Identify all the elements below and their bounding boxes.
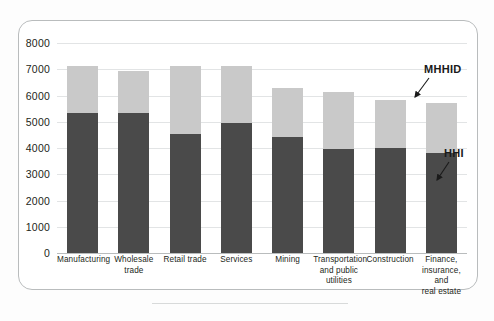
x-axis-label-0: Manufacturing xyxy=(57,255,108,266)
bar-segment-hhi[interactable] xyxy=(375,148,406,253)
x-axis-label-line: Manufacturing xyxy=(57,255,108,266)
x-axis-label-line: Transportation xyxy=(313,255,364,266)
x-axis-label-line: utilities xyxy=(313,276,364,287)
bar-segment-mhhid[interactable] xyxy=(67,66,98,113)
figure: 800070006000500040003000200010000Manufac… xyxy=(0,0,494,321)
annotation-label-hhi: HHI xyxy=(444,147,464,159)
y-axis-tick-3000: 3000 xyxy=(26,168,50,180)
bar-segment-mhhid[interactable] xyxy=(118,71,149,113)
y-axis-tick-1000: 1000 xyxy=(26,221,50,233)
bar-segment-mhhid[interactable] xyxy=(323,92,354,149)
x-axis-label-line: trade xyxy=(108,266,159,277)
x-axis-label-6: Construction xyxy=(365,255,416,266)
x-axis-label-line: insurance, and xyxy=(416,266,467,287)
x-axis-label-5: Transportationand publicutilities xyxy=(313,255,364,287)
bar-6[interactable] xyxy=(375,100,406,253)
bar-segment-mhhid[interactable] xyxy=(426,103,457,153)
bar-5[interactable] xyxy=(323,92,354,253)
bar-7[interactable] xyxy=(426,103,457,253)
gridline-8000 xyxy=(57,43,467,44)
y-axis-tick-2000: 2000 xyxy=(26,195,50,207)
x-axis-label-line: Finance, xyxy=(416,255,467,266)
x-axis-label-line: Construction xyxy=(365,255,416,266)
bar-segment-hhi[interactable] xyxy=(272,137,303,253)
annotation-label-mhhid: MHHID xyxy=(424,63,462,75)
x-axis-label-line: Retail trade xyxy=(160,255,211,266)
x-axis-label-1: Wholesaletrade xyxy=(108,255,159,276)
bar-segment-hhi[interactable] xyxy=(170,134,201,253)
bar-3[interactable] xyxy=(221,66,252,253)
x-axis-label-2: Retail trade xyxy=(160,255,211,266)
x-axis-label-3: Services xyxy=(211,255,262,266)
bar-segment-hhi[interactable] xyxy=(221,123,252,253)
x-axis-label-line: and public xyxy=(313,266,364,277)
y-axis-tick-4000: 4000 xyxy=(26,142,50,154)
gridline-0 xyxy=(57,253,467,254)
x-axis-label-7: Finance,insurance, andreal estate xyxy=(416,255,467,297)
x-axis-label-line: Services xyxy=(211,255,262,266)
x-axis-label-line: Wholesale xyxy=(108,255,159,266)
bar-segment-mhhid[interactable] xyxy=(272,88,303,136)
y-axis-tick-7000: 7000 xyxy=(26,63,50,75)
y-axis-tick-6000: 6000 xyxy=(26,90,50,102)
plot-area: 800070006000500040003000200010000Manufac… xyxy=(57,43,467,253)
bar-4[interactable] xyxy=(272,88,303,253)
y-axis-tick-0: 0 xyxy=(44,247,50,259)
bottom-rule xyxy=(152,303,348,304)
bar-segment-mhhid[interactable] xyxy=(375,100,406,148)
bar-segment-mhhid[interactable] xyxy=(170,66,201,134)
bar-1[interactable] xyxy=(118,71,149,253)
y-axis-tick-8000: 8000 xyxy=(26,37,50,49)
bar-segment-hhi[interactable] xyxy=(118,113,149,253)
bar-segment-mhhid[interactable] xyxy=(221,66,252,123)
x-axis-label-line: real estate xyxy=(416,287,467,298)
bar-segment-hhi[interactable] xyxy=(67,113,98,253)
bar-segment-hhi[interactable] xyxy=(426,153,457,253)
bar-0[interactable] xyxy=(67,66,98,253)
x-axis-label-line: Mining xyxy=(262,255,313,266)
bar-2[interactable] xyxy=(170,66,201,253)
y-axis-tick-5000: 5000 xyxy=(26,116,50,128)
bar-segment-hhi[interactable] xyxy=(323,149,354,253)
x-axis-label-4: Mining xyxy=(262,255,313,266)
